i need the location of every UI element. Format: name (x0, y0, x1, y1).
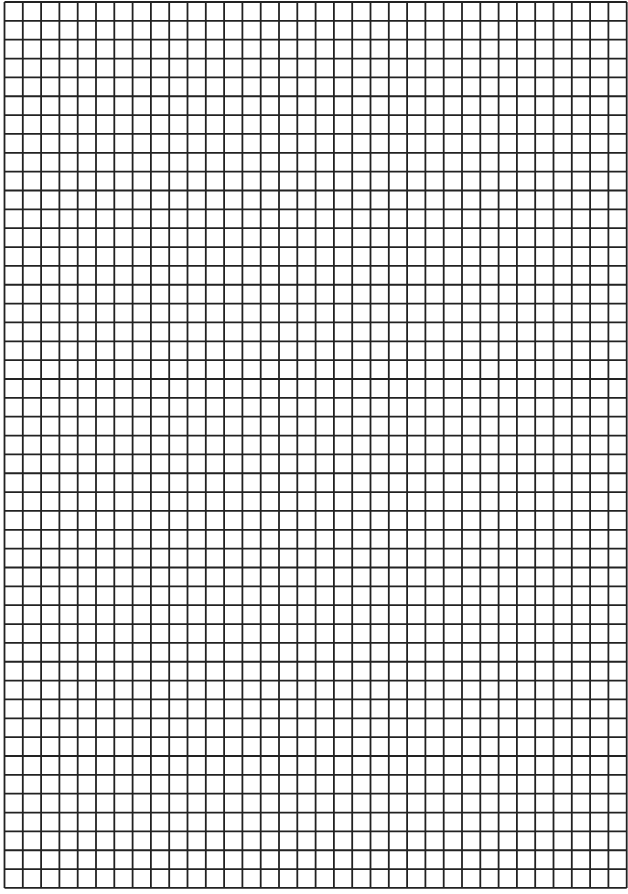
grid-paper (0, 0, 628, 894)
